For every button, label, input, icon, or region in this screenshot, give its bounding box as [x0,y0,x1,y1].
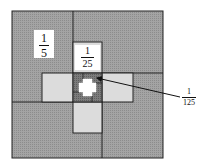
label-one-twentyfifth-numerator: 1 [75,46,100,56]
label-one-fifth: 1 5 [34,32,54,59]
label-one-hundredtwentyfifth-denominator: 125 [178,99,200,107]
label-one-hundredtwentyfifth-numerator: 1 [178,88,200,96]
arm-bottom [73,102,102,133]
label-one-fifth-denominator: 5 [34,47,54,59]
label-one-twentyfifth-denominator: 25 [75,59,100,69]
arm-right [102,73,133,102]
label-one-twentyfifth: 1 25 [75,46,100,69]
label-one-fifth-numerator: 1 [34,32,54,44]
arm-left [42,73,73,102]
label-one-hundredtwentyfifth: 1 125 [178,88,200,107]
subdivision-diagram [0,0,207,164]
